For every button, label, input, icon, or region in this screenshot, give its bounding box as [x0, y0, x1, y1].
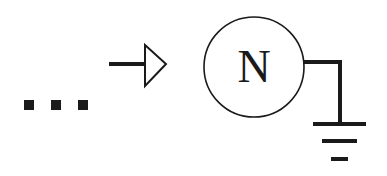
- input-arrow: [109, 45, 166, 86]
- diagram-canvas: N: [0, 0, 387, 176]
- arrow-head-icon: [145, 45, 166, 86]
- ellipsis-dot-1: [24, 100, 34, 110]
- node: N: [204, 17, 304, 117]
- node-label: N: [237, 41, 270, 92]
- ellipsis: [24, 100, 88, 110]
- ground-icon: [313, 124, 366, 159]
- ellipsis-dot-2: [51, 100, 61, 110]
- ground-wire: [304, 62, 340, 124]
- ellipsis-dot-3: [78, 100, 88, 110]
